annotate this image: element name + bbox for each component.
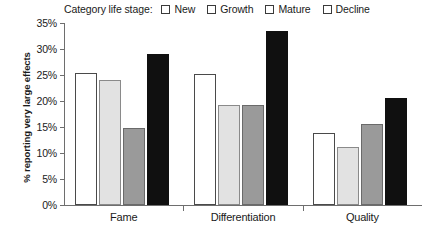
legend-label-new: New [174,3,195,15]
legend-swatch-growth-icon [207,5,216,14]
bar [194,74,216,205]
y-axis-tick-label: 30% [37,43,57,54]
legend-swatch-decline-icon [323,5,332,14]
x-axis-category-label: Fame [64,211,183,223]
bar [361,124,383,205]
bar [99,80,121,205]
legend-label-mature: Mature [278,3,310,15]
bar-chart: Category life stage: New Growth Mature D… [0,0,432,237]
legend-label-growth: Growth [220,3,253,15]
y-axis-tick-label: 15% [37,121,57,132]
bar [147,54,169,205]
x-axis-line [64,205,422,206]
y-axis-tick-mark [60,205,64,206]
bar [385,98,407,205]
legend-label-decline: Decline [336,3,370,15]
y-axis-title: % reporting very large effects [21,33,32,203]
bar [218,105,240,205]
x-axis-category-label: Differentiation [183,211,302,223]
plot-area: 0%5%10%15%20%25%30%35% [64,23,422,205]
bar [75,73,97,205]
legend-entry-mature: Mature [265,3,310,15]
y-axis-tick-mark [60,153,64,154]
y-axis-tick-mark [60,101,64,102]
x-axis-category-label: Quality [303,211,422,223]
legend-title: Category life stage: [64,3,152,15]
bar [123,128,145,205]
legend-entry-new: New [161,3,195,15]
y-axis-tick-mark [60,23,64,24]
legend-swatch-mature-icon [265,5,274,14]
legend-entry-growth: Growth [207,3,253,15]
bar [242,105,264,205]
y-axis-tick-mark [60,127,64,128]
bar [337,147,359,205]
bar [266,31,288,205]
y-axis-tick-label: 20% [37,95,57,106]
y-axis-tick-label: 25% [37,69,57,80]
y-axis-tick-label: 10% [37,147,57,158]
chart-legend: Category life stage: New Growth Mature D… [64,2,370,16]
y-axis-tick-label: 5% [42,173,57,184]
legend-swatch-new-icon [161,5,170,14]
bar [313,133,335,205]
y-axis-tick-label: 35% [37,17,57,28]
legend-entry-decline: Decline [323,3,370,15]
y-axis-tick-label: 0% [42,199,57,210]
y-axis-tick-mark [60,75,64,76]
y-axis-tick-mark [60,49,64,50]
y-axis-tick-mark [60,179,64,180]
